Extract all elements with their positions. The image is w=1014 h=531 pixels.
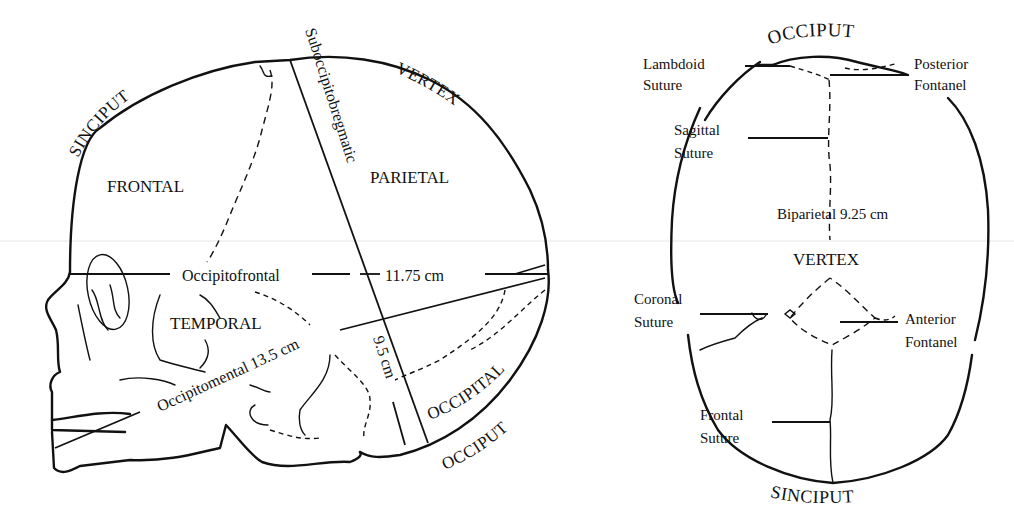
frontal-suture [830,350,833,483]
label-anterior-2: Fontanel [905,334,958,350]
label-biparietal: Biparietal 9.25 cm [777,206,889,222]
label-coronal-2: Suture [634,314,674,330]
label-sagittal-1: Sagittal [674,122,720,138]
label-lambdoid-2: Suture [643,77,683,93]
label-frontal-1: Frontal [700,407,743,423]
label-frontal-2: Suture [700,430,740,446]
superior-skull-view: OCCIPUT SINCIPUT VERTEX Biparietal 9.25 … [0,0,1014,531]
label-lambdoid-1: Lambdoid [643,56,705,72]
label-occiput-superior: OCCIPUT [765,19,856,49]
anterior-fontanel [790,278,875,345]
label-posterior-1: Posterior [914,56,968,72]
label-posterior-2: Fontanel [914,77,967,93]
coronal-suture-top [700,318,762,350]
label-anterior-1: Anterior [905,311,956,327]
label-sinciput-superior: SINCIPUT [769,481,855,507]
fetal-skull-diagram: SINCIPUT VERTEX OCCIPUT OCCIPITAL FRONTA… [0,0,1014,531]
label-sagittal-2: Suture [674,145,714,161]
label-vertex-superior: VERTEX [793,250,859,269]
label-coronal-1: Coronal [634,291,682,307]
